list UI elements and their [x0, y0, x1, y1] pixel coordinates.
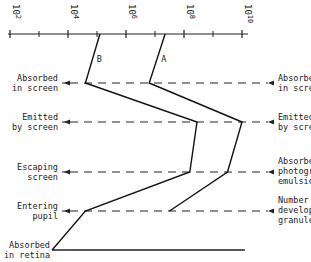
right-stage-label: Absorbed inphotographicemulsion	[278, 156, 311, 186]
tick-label-text: 102	[11, 4, 22, 19]
left-stage-label: Absorbedin retina	[4, 240, 50, 260]
tick-label-text: 1010	[243, 4, 254, 23]
label-line: screen	[27, 172, 58, 182]
series-lines: BA	[52, 34, 242, 250]
label-line: granules	[278, 215, 311, 225]
tick-label: 108	[185, 4, 196, 19]
label-line: in retina	[4, 250, 50, 260]
tick-label-text: 108	[185, 4, 196, 19]
left-stage-label: Absorbedin screen	[12, 73, 58, 93]
tick-base: 10	[243, 4, 253, 15]
right-stage-label: Number ofdevelopablegranules	[278, 195, 311, 225]
label-line: developable	[278, 205, 311, 215]
tick-base: 10	[69, 4, 79, 15]
left-stage-label: Enteringpupil	[17, 201, 58, 221]
label-line: in screen	[278, 83, 311, 93]
tick-exponent: 2	[14, 15, 22, 19]
left-stage-label: Escapingscreen	[17, 162, 58, 182]
stage-labels: Absorbedin screenEmittedby screenEscapin…	[4, 73, 311, 260]
label-line: Absorbed	[17, 73, 58, 83]
right-arrow-icon	[268, 81, 274, 86]
series-label-b: B	[97, 54, 102, 64]
tick-label: 102	[11, 4, 22, 19]
label-line: by screen	[12, 122, 58, 132]
label-line: photographic	[278, 166, 311, 176]
tick-base: 10	[127, 4, 137, 15]
stage-guides	[52, 81, 274, 251]
log-axis: 1021041061081010	[8, 4, 254, 38]
label-line: in screen	[12, 83, 58, 93]
tick-label: 1010	[243, 4, 254, 23]
label-line: emulsion	[278, 176, 311, 186]
right-arrow-icon	[268, 170, 274, 175]
tick-base: 10	[185, 4, 195, 15]
label-line: Entering	[17, 201, 58, 211]
tick-label-text: 104	[69, 4, 80, 19]
left-stage-label: Emittedby screen	[12, 112, 58, 132]
label-line: Absorbed	[9, 240, 50, 250]
tick-exponent: 8	[188, 15, 196, 19]
tick-label: 104	[69, 4, 80, 19]
label-line: Absorbed in	[278, 156, 311, 166]
label-line: pupil	[32, 211, 58, 221]
right-stage-label: Absorbedin screen	[278, 73, 311, 93]
right-arrow-icon	[268, 209, 274, 214]
tick-label-text: 106	[127, 4, 138, 19]
right-stage-label: Emittedby screen	[278, 112, 311, 132]
label-line: Escaping	[17, 162, 58, 172]
photon-flow-diagram: 1021041061081010 BA Absorbedin screenEmi…	[0, 0, 311, 262]
label-line: by screen	[278, 122, 311, 132]
tick-exponent: 4	[72, 15, 80, 19]
right-arrow-icon	[268, 120, 274, 125]
label-line: Emitted	[22, 112, 58, 122]
tick-label: 106	[127, 4, 138, 19]
series-line-b	[52, 34, 197, 250]
tick-exponent: 10	[246, 15, 254, 23]
label-line: Number of	[278, 195, 311, 205]
tick-exponent: 6	[130, 15, 138, 19]
series-label-a: A	[161, 54, 166, 64]
tick-base: 10	[11, 4, 21, 15]
label-line: Absorbed	[278, 73, 311, 83]
label-line: Emitted	[278, 112, 311, 122]
